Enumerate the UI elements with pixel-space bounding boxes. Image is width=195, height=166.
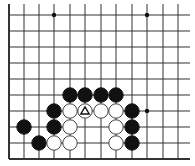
black-stone <box>78 88 92 102</box>
white-stone <box>109 136 123 150</box>
star-point <box>52 13 56 17</box>
star-point <box>145 13 149 17</box>
white-stone <box>78 104 92 118</box>
black-stone <box>47 104 61 118</box>
black-stone <box>109 88 123 102</box>
black-stone <box>17 120 31 134</box>
white-stone <box>63 120 77 134</box>
black-stone <box>125 104 139 118</box>
go-board <box>0 0 195 166</box>
black-stone <box>125 136 139 150</box>
star-point <box>145 109 149 113</box>
white-stone <box>63 136 77 150</box>
board-grid <box>9 4 190 159</box>
white-stone <box>94 104 108 118</box>
stones <box>17 88 139 150</box>
white-stone <box>109 120 123 134</box>
white-stone <box>47 136 61 150</box>
white-stone <box>109 104 123 118</box>
black-stone <box>63 88 77 102</box>
black-stone <box>47 120 61 134</box>
black-stone <box>32 136 46 150</box>
white-stone <box>63 104 77 118</box>
black-stone <box>125 120 139 134</box>
black-stone <box>94 88 108 102</box>
